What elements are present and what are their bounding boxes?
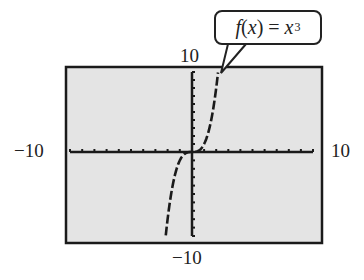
viewing-window: [66, 67, 322, 243]
callout-var: x: [285, 16, 294, 39]
callout-open-paren: (: [241, 16, 248, 39]
function-callout: f(x) = x3: [214, 10, 322, 45]
y-min-label: −10: [172, 248, 202, 267]
callout-x: x: [248, 16, 257, 39]
callout-exponent: 3: [294, 20, 300, 35]
y-max-label: 10: [180, 46, 199, 65]
x-max-label: 10: [331, 141, 350, 160]
x-min-label: −10: [14, 141, 44, 160]
callout-equals: =: [263, 16, 284, 39]
callout-close-paren: ): [257, 16, 264, 39]
